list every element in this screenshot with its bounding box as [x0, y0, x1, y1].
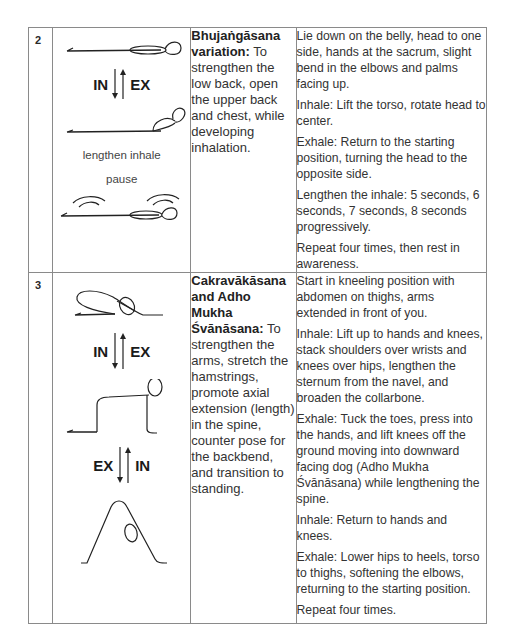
- sequence-table: 2 IN EX lengthen inhale: [28, 27, 487, 624]
- breathing-prone-figure-icon: [53, 189, 189, 225]
- exhale-label: EX: [130, 76, 150, 93]
- childs-pose-figure-icon: [53, 281, 189, 323]
- breath-arrows: IN EX: [53, 331, 190, 371]
- instruction-line: Inhale: Lift up to hands and knees, stac…: [297, 326, 486, 406]
- caption-lengthen-inhale: lengthen inhale: [53, 149, 190, 161]
- up-down-arrows-icon: [111, 331, 127, 371]
- instruction-line: Inhale: Lift the torso, rotate head to c…: [297, 97, 486, 129]
- step-number: 3: [29, 273, 52, 291]
- pose-purpose: To strengthen the low back, open the upp…: [191, 44, 284, 155]
- exhale-label: EX: [93, 457, 113, 474]
- instructions-cell: Start in kneeling position with abdomen …: [296, 273, 486, 624]
- pose-purpose: To strengthen the arms, stretch the hams…: [191, 321, 294, 496]
- breath-arrows: EX IN: [53, 445, 190, 485]
- cobra-figure-icon: [53, 103, 189, 137]
- instruction-line: Exhale: Return to the starting position,…: [297, 134, 486, 182]
- exhale-label: EX: [130, 343, 150, 360]
- pose-description: Bhujaṅgāsana variation: To strengthen th…: [191, 28, 296, 273]
- inhale-label: IN: [135, 457, 150, 474]
- caption-pause: pause: [53, 173, 190, 185]
- breath-arrows: IN EX: [53, 67, 190, 101]
- table-row: 3 IN EX EX: [29, 273, 487, 624]
- instruction-line: Start in kneeling position with abdomen …: [297, 273, 486, 321]
- step-number: 2: [29, 28, 52, 46]
- instruction-line: Inhale: Return to hands and knees.: [297, 512, 486, 544]
- instruction-line: Lie down on the belly, head to one side,…: [297, 28, 486, 92]
- instruction-line: Repeat four times, then rest in awarenes…: [297, 240, 486, 272]
- table-pose-figure-icon: [53, 379, 189, 439]
- pose-description: Cakravākāsana and Adho Mukha Śvānāsana: …: [191, 273, 296, 624]
- pose-figure-cell: IN EX lengthen inhale pause: [53, 28, 191, 273]
- pose-figure-cell: IN EX EX IN: [53, 273, 191, 624]
- inhale-label: IN: [93, 76, 108, 93]
- inhale-label: IN: [93, 343, 108, 360]
- instruction-line: Exhale: Tuck the toes, press into the ha…: [297, 411, 486, 507]
- up-down-arrows-icon: [116, 445, 132, 485]
- up-down-arrows-icon: [111, 67, 127, 101]
- downward-dog-figure-icon: [53, 495, 189, 567]
- prone-figure-icon: [53, 34, 189, 64]
- instruction-line: Lengthen the inhale: 5 seconds, 6 second…: [297, 187, 486, 235]
- instructions-cell: Lie down on the belly, head to one side,…: [296, 28, 486, 273]
- instruction-line: Repeat four times.: [297, 602, 486, 618]
- table-row: 2 IN EX lengthen inhale: [29, 28, 487, 273]
- instruction-line: Exhale: Lower hips to heels, torso to th…: [297, 549, 486, 597]
